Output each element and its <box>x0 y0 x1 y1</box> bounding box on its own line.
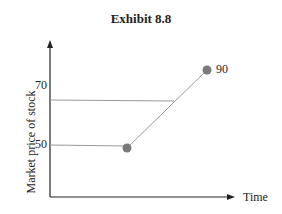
price-rise-line <box>127 70 207 148</box>
point-90-dot <box>203 66 212 75</box>
y-axis-arrow-icon <box>47 40 53 48</box>
point-50-dot <box>123 144 132 153</box>
level-70-line <box>50 100 174 101</box>
point-label-90: 90 <box>216 62 228 77</box>
level-50-line <box>50 145 127 146</box>
x-axis-label: Time <box>243 190 268 205</box>
chart-canvas <box>0 0 282 214</box>
y-axis-label: Market price of stock <box>24 91 39 194</box>
x-axis-arrow-icon <box>227 194 235 200</box>
